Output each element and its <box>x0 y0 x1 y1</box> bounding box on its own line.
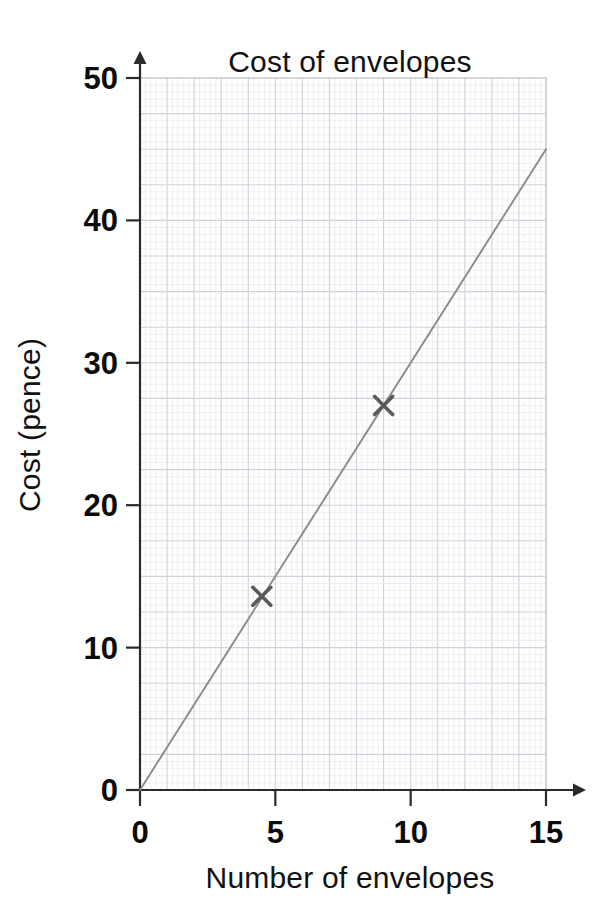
y-tick-label: 0 <box>101 773 118 808</box>
y-axis-title: Cost (pence) <box>13 338 46 512</box>
cost-of-envelopes-chart: Cost of envelopes 01020304050 051015 Num… <box>0 0 595 917</box>
chart-page: Cost of envelopes 01020304050 051015 Num… <box>0 0 595 917</box>
x-tick-label: 5 <box>267 815 284 850</box>
x-tick-label: 15 <box>529 815 563 850</box>
y-tick-label: 20 <box>84 488 118 523</box>
y-tick-label: 10 <box>84 631 118 666</box>
y-tick-label: 40 <box>84 203 118 238</box>
chart-title: Cost of envelopes <box>228 45 472 78</box>
x-tick-label: 0 <box>131 815 148 850</box>
y-tick-label: 50 <box>84 61 118 96</box>
x-tick-label: 10 <box>393 815 427 850</box>
grid-major-lines <box>140 78 546 790</box>
x-axis-title: Number of envelopes <box>206 861 495 894</box>
chart-background <box>0 0 595 917</box>
y-tick-label: 30 <box>84 346 118 381</box>
